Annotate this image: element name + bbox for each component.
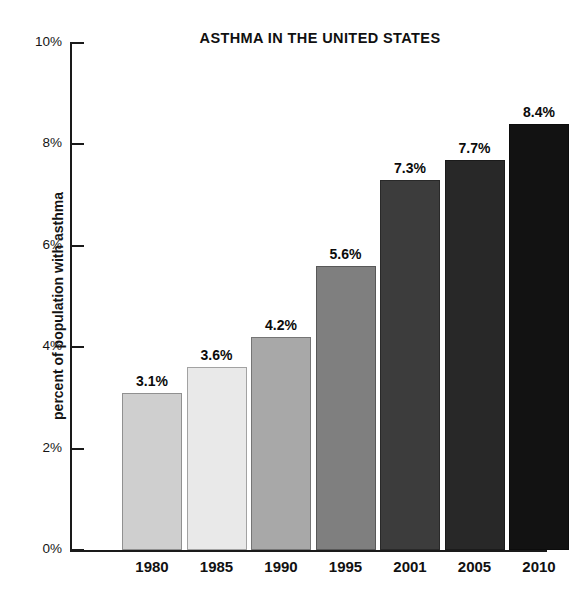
y-tick-label: 10% — [10, 34, 62, 49]
y-tick-label: 2% — [10, 440, 62, 455]
bar-group: 5.6% — [316, 43, 376, 550]
bar-2010[interactable] — [509, 124, 569, 550]
bar-group: 3.1% — [122, 43, 182, 550]
bar-value-label-2010: 8.4% — [483, 104, 575, 120]
bar-1995[interactable] — [316, 266, 376, 550]
y-tick-label: 6% — [10, 237, 62, 252]
bar-group: 8.4% — [509, 43, 569, 550]
y-tick-label: 8% — [10, 135, 62, 150]
asthma-bar-chart: ASTHMA IN THE UNITED STATES percent of p… — [0, 0, 575, 601]
bar-1990[interactable] — [251, 337, 311, 550]
y-tick-label: 4% — [10, 338, 62, 353]
bar-group: 3.6% — [187, 43, 247, 550]
bar-1980[interactable] — [122, 393, 182, 550]
plot-area: 3.1%3.6%4.2%5.6%7.3%7.7%8.4% — [72, 43, 547, 551]
bar-2005[interactable] — [445, 160, 505, 550]
bar-group: 7.3% — [380, 43, 440, 550]
y-axis-label: percent of population with asthma — [50, 156, 66, 456]
x-tick-label-2010: 2010 — [499, 558, 575, 575]
y-tick-label: 0% — [10, 541, 62, 556]
bar-2001[interactable] — [380, 180, 440, 550]
bar-1985[interactable] — [187, 367, 247, 550]
bar-group: 4.2% — [251, 43, 311, 550]
